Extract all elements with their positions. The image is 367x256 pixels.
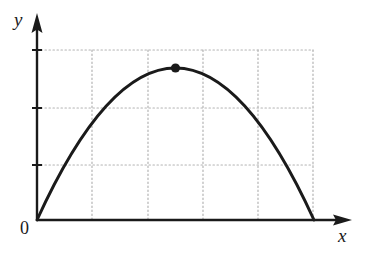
parabola-figure: y x 0	[0, 0, 367, 256]
origin-label: 0	[20, 219, 29, 237]
vertical-gridlines	[92, 50, 313, 220]
x-axis	[37, 215, 352, 226]
x-axis-label: x	[338, 226, 346, 245]
y-axis	[32, 13, 43, 220]
plot-canvas	[0, 0, 367, 256]
vertex-point-marker	[171, 63, 180, 72]
y-axis-label: y	[14, 10, 22, 29]
parabola-curve	[37, 68, 314, 220]
